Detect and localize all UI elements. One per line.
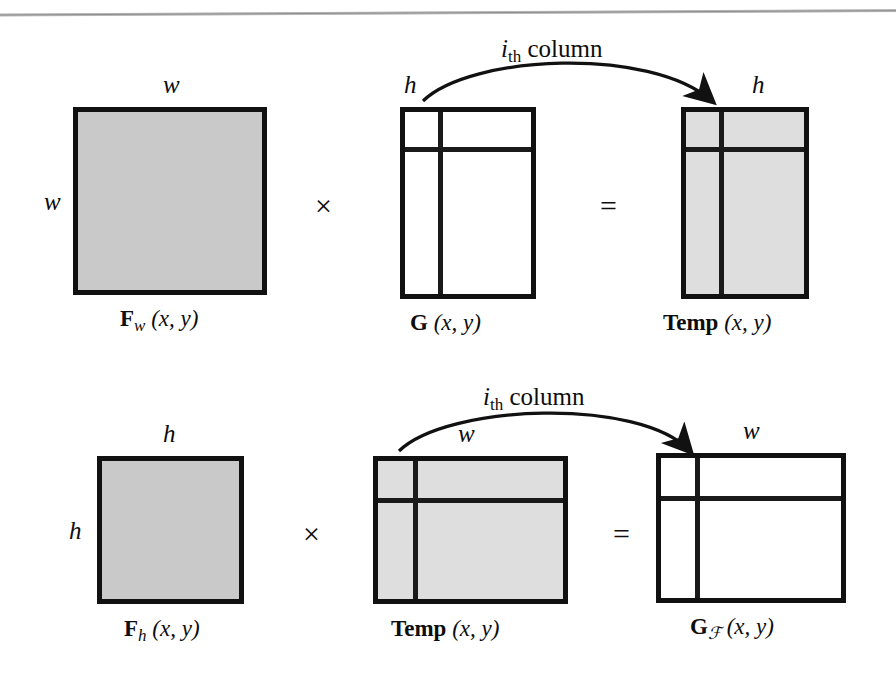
operator-times-row1: × — [315, 191, 332, 221]
caption-temp-row2: Temp (x, y) — [391, 617, 499, 640]
caption-temp-row1: Temp (x, y) — [663, 311, 771, 334]
arrow-label-row1: ith column — [501, 36, 602, 65]
figure-canvas: w w Fw (x, y) × h G (x, y) = h Temp (x, … — [0, 0, 896, 675]
caption-fh: Fh (x, y) — [124, 617, 200, 644]
caption-g-symbol: G — [410, 310, 428, 335]
matrix-fw — [73, 107, 267, 295]
g-dim-top: h — [404, 72, 417, 97]
temp-row1-dim-top: h — [752, 72, 765, 97]
caption-gf-subscript: ℱ — [708, 623, 721, 643]
caption-fh-subscript: h — [138, 626, 147, 645]
fh-dim-left: h — [69, 518, 82, 543]
matrix-g-column-divider — [438, 112, 443, 294]
caption-fw-args: (x, y) — [145, 306, 198, 331]
matrix-temp-row1-row-divider — [686, 147, 804, 152]
operator-equals-row2: = — [613, 519, 630, 549]
arrow-label-row1-sub: th — [508, 47, 521, 66]
matrix-temp-row1 — [681, 107, 809, 299]
fh-dim-top: h — [163, 421, 176, 446]
matrix-g — [400, 107, 536, 299]
arrow-label-row2-sub: th — [490, 395, 503, 414]
caption-fw-subscript: w — [134, 316, 145, 335]
gf-dim-top: w — [743, 418, 760, 443]
caption-g-args: (x, y) — [428, 310, 481, 335]
caption-temp-row2-args: (x, y) — [446, 616, 499, 641]
operator-equals-row1: = — [600, 191, 617, 221]
arrow-label-row2-word: column — [503, 383, 584, 410]
caption-gf-args: (x, y) — [721, 614, 774, 639]
caption-fw: Fw (x, y) — [120, 307, 198, 334]
caption-fw-symbol: F — [120, 306, 134, 331]
matrix-temp-row2-column-divider — [413, 461, 418, 599]
fw-dim-left: w — [44, 189, 61, 214]
caption-fh-args: (x, y) — [147, 616, 200, 641]
arrow-label-row2: ith column — [483, 384, 584, 413]
arrow-label-row2-base: i — [483, 383, 490, 410]
caption-fh-symbol: F — [124, 616, 138, 641]
operator-times-row2: × — [303, 519, 320, 549]
temp-row2-dim-top: w — [458, 421, 475, 446]
caption-gf-symbol: G — [690, 614, 708, 639]
matrix-gf-row-divider — [661, 496, 841, 501]
arrow-label-row1-word: column — [521, 35, 602, 62]
caption-temp-row2-symbol: Temp — [391, 616, 446, 641]
matrix-gf — [656, 453, 846, 603]
arrow-label-row1-base: i — [501, 35, 508, 62]
top-divider-rule — [0, 9, 896, 17]
matrix-gf-column-divider — [695, 458, 700, 598]
matrix-temp-row1-column-divider — [719, 112, 724, 294]
matrix-fh — [97, 456, 244, 604]
matrix-temp-row2-row-divider — [378, 498, 563, 503]
caption-temp-row1-symbol: Temp — [663, 310, 718, 335]
caption-g: G (x, y) — [410, 311, 481, 334]
caption-gf: Gℱ (x, y) — [690, 615, 774, 642]
matrix-g-row-divider — [405, 147, 531, 152]
matrix-temp-row2 — [373, 456, 568, 604]
fw-dim-top: w — [163, 72, 180, 97]
caption-temp-row1-args: (x, y) — [718, 310, 771, 335]
